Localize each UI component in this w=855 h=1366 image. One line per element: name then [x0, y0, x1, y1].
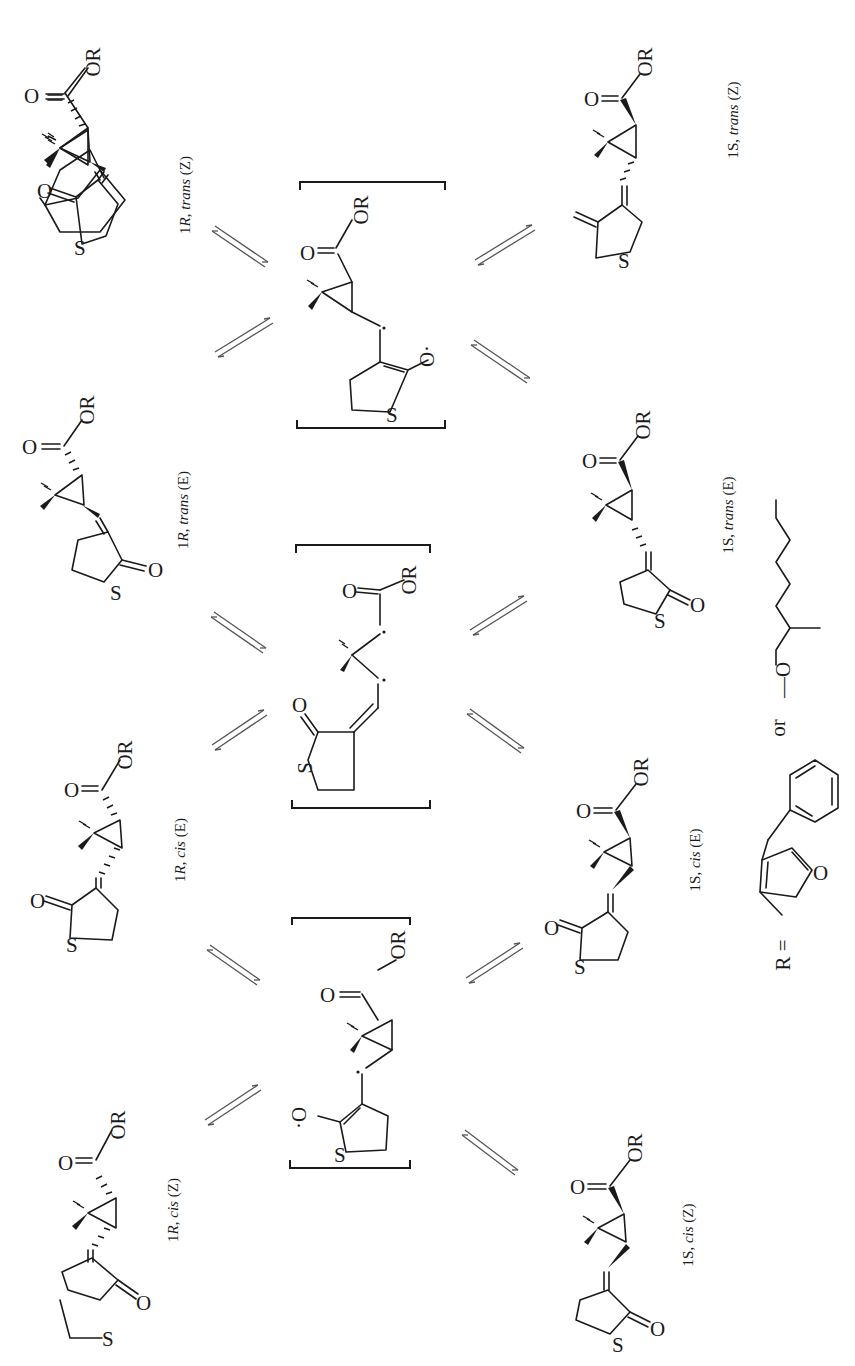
- svg-text:O: O: [582, 449, 597, 473]
- svg-text:OR: OR: [81, 47, 105, 76]
- svg-text:S: S: [102, 1327, 114, 1351]
- eq-arrow: [470, 596, 527, 635]
- svg-text:S: S: [66, 933, 78, 957]
- svg-text:·O: ·O: [287, 1107, 311, 1129]
- eq-arrow: [462, 1130, 518, 1175]
- eq-arrow: [211, 612, 266, 653]
- eq-arrow: [212, 710, 267, 750]
- svg-text:1R, trans (Z): 1R, trans (Z): [177, 156, 194, 234]
- reaction-scheme: 1R, trans (Z) 1R, trans (E) 1R, cis (E) …: [0, 0, 855, 1366]
- label-1R-cis-E: 1R, cis (E): [172, 818, 189, 882]
- svg-text:OR: OR: [397, 565, 421, 594]
- eq-arrow: [205, 1085, 261, 1125]
- label-1R-cis-Z: 1R, cis (Z): [165, 1178, 182, 1242]
- svg-text:O: O: [148, 558, 163, 582]
- svg-text:1R, trans (E): 1R, trans (E): [175, 471, 192, 549]
- structure-1R-cis-E: O S O OR: [30, 740, 137, 957]
- structure-1S-cis-Z: O S O OR: [570, 1133, 665, 1357]
- svg-text:OR: OR: [629, 757, 653, 786]
- structure-1R-cis-Z: O S O OR: [58, 1110, 151, 1351]
- eq-arrow: [466, 943, 523, 983]
- svg-text:O: O: [37, 179, 52, 203]
- svg-text:S: S: [293, 762, 317, 774]
- svg-text:O: O: [58, 1151, 73, 1175]
- r-group-legend: R = O or —O: [760, 500, 838, 971]
- svg-text:O: O: [650, 1317, 665, 1341]
- svg-text:S: S: [574, 955, 586, 979]
- svg-text:O·: O·: [415, 345, 439, 367]
- svg-text:1R, cis (Z): 1R, cis (Z): [165, 1178, 182, 1242]
- svg-text:1S, trans (Z): 1S, trans (Z): [725, 81, 742, 158]
- svg-text:OR: OR: [349, 195, 373, 224]
- eq-arrow: [215, 318, 273, 357]
- molecule-1R-trans-Z: [40, 68, 125, 232]
- label-1S-trans-E: 1S, trans (E): [720, 476, 737, 553]
- svg-text:O: O: [342, 579, 357, 603]
- svg-text:S: S: [74, 236, 86, 260]
- intermediate-lower: OR O ·O S: [287, 918, 410, 1168]
- svg-text:O: O: [136, 1291, 151, 1315]
- svg-text:S: S: [654, 609, 666, 633]
- structure-1R-trans-E: O S O OR: [22, 395, 163, 605]
- label-1R-trans-Z: 1R, trans (Z): [177, 156, 194, 234]
- svg-text:OR: OR: [75, 395, 99, 424]
- eq-arrow: [475, 225, 535, 265]
- label-1S-trans-Z: 1S, trans (Z): [725, 81, 742, 158]
- svg-text:S: S: [612, 1333, 624, 1357]
- eq-arrow: [471, 340, 530, 383]
- svg-text:O: O: [30, 889, 45, 913]
- svg-text:1R, cis (E): 1R, cis (E): [172, 818, 189, 882]
- svg-text:1S, cis (Z): 1S, cis (Z): [680, 1204, 697, 1267]
- svg-text:O: O: [292, 693, 307, 717]
- svg-text:or: or: [766, 719, 790, 737]
- svg-text:O: O: [300, 241, 315, 265]
- svg-text:OR: OR: [631, 410, 655, 439]
- intermediate-ring-opened: OR O O S: [292, 545, 430, 808]
- svg-text:O: O: [320, 983, 335, 1007]
- intermediate-upper: O OR O· S: [297, 182, 445, 428]
- svg-text:O: O: [813, 861, 828, 885]
- svg-text:O: O: [576, 799, 591, 823]
- svg-text:OR: OR: [106, 1110, 130, 1139]
- label-1S-cis-Z: 1S, cis (Z): [680, 1204, 697, 1267]
- svg-text:O: O: [544, 916, 559, 940]
- svg-text:OR: OR: [623, 1133, 647, 1162]
- svg-text:S: S: [386, 403, 398, 427]
- structure-1S-trans-E: O S O OR: [582, 410, 705, 633]
- svg-text:S: S: [618, 249, 630, 273]
- svg-text:OR: OR: [633, 47, 657, 76]
- eq-arrow: [212, 226, 268, 267]
- svg-text:R =: R =: [771, 939, 795, 970]
- label-1S-cis-E: 1S, cis (E): [687, 829, 704, 892]
- svg-text:—O: —O: [771, 662, 795, 699]
- svg-text:O: O: [22, 435, 37, 459]
- eq-arrow: [467, 709, 524, 753]
- svg-text:O: O: [570, 1175, 585, 1199]
- svg-text:S: S: [110, 581, 122, 605]
- svg-text:O: O: [64, 778, 79, 802]
- svg-text:O: O: [584, 87, 599, 111]
- svg-text:OR: OR: [113, 740, 137, 769]
- svg-text:O: O: [24, 84, 39, 108]
- svg-text:1S, trans (E): 1S, trans (E): [720, 476, 737, 553]
- svg-text:S: S: [334, 1143, 346, 1167]
- svg-text:1S, cis (E): 1S, cis (E): [687, 829, 704, 892]
- eq-arrow: [207, 945, 260, 985]
- label-1R-trans-E: 1R, trans (E): [175, 471, 192, 549]
- svg-text:OR: OR: [386, 930, 410, 959]
- structure-1S-trans-Z: S O OR: [574, 47, 657, 273]
- structure-1S-cis-E: O S O OR: [544, 757, 653, 979]
- svg-text:O: O: [690, 593, 705, 617]
